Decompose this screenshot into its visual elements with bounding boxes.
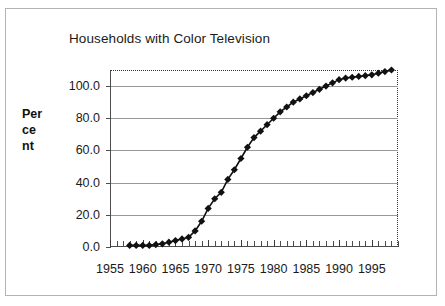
data-point-marker bbox=[316, 86, 323, 93]
y-axis-tick-mark bbox=[106, 247, 111, 248]
x-axis-tick-label: 1960 bbox=[129, 262, 157, 276]
data-point-marker bbox=[178, 235, 185, 242]
data-point-marker bbox=[133, 242, 140, 249]
data-point-marker bbox=[139, 242, 146, 249]
y-axis-tick-label: 100.0 bbox=[48, 79, 100, 93]
x-axis-tick-label: 1975 bbox=[227, 262, 255, 276]
data-point-marker bbox=[296, 95, 303, 102]
y-axis-tick-label: 80.0 bbox=[48, 111, 100, 125]
data-point-marker bbox=[309, 89, 316, 96]
y-axis-tick-label: 20.0 bbox=[48, 208, 100, 222]
x-axis-tick-labels: 195519601965197019751980198519901995 bbox=[6, 262, 445, 282]
data-point-marker bbox=[362, 72, 369, 79]
data-point-marker bbox=[165, 239, 172, 246]
x-axis-tick-label: 1995 bbox=[358, 262, 386, 276]
data-point-marker bbox=[349, 74, 356, 81]
data-point-marker bbox=[381, 68, 388, 75]
y-axis-tick-labels: 0.020.040.060.080.0100.0 bbox=[48, 69, 100, 269]
data-point-marker bbox=[355, 73, 362, 80]
series-line bbox=[130, 70, 392, 245]
x-axis-tick-label: 1990 bbox=[325, 262, 353, 276]
y-axis-tick-label: 60.0 bbox=[48, 143, 100, 157]
data-point-marker bbox=[146, 242, 153, 249]
y-axis-tick-label: 40.0 bbox=[48, 176, 100, 190]
data-point-marker bbox=[172, 237, 179, 244]
data-series-color-tv bbox=[110, 70, 398, 247]
data-point-marker bbox=[322, 82, 329, 89]
data-point-marker bbox=[303, 92, 310, 99]
x-axis-tick-mark bbox=[398, 241, 399, 247]
data-point-marker bbox=[237, 155, 244, 162]
y-axis-tick-label: 0.0 bbox=[48, 240, 100, 254]
x-axis-tick-label: 1955 bbox=[96, 262, 124, 276]
data-point-marker bbox=[368, 71, 375, 78]
data-point-marker bbox=[152, 241, 159, 248]
figure-page: Households with Color Television Per ce … bbox=[0, 0, 445, 306]
x-axis-tick-label: 1970 bbox=[194, 262, 222, 276]
x-axis-tick-label: 1985 bbox=[292, 262, 320, 276]
data-point-marker bbox=[342, 74, 349, 81]
data-point-marker bbox=[335, 76, 342, 83]
data-point-marker bbox=[329, 79, 336, 86]
data-point-marker bbox=[375, 70, 382, 77]
plot-area bbox=[110, 70, 398, 247]
data-point-marker bbox=[159, 240, 166, 247]
data-point-marker bbox=[388, 66, 395, 73]
data-point-marker bbox=[126, 242, 133, 249]
chart-title: Households with Color Television bbox=[69, 31, 369, 46]
x-axis-tick-label: 1980 bbox=[260, 262, 288, 276]
figure-frame: Households with Color Television Per ce … bbox=[5, 8, 437, 296]
x-axis-tick-label: 1965 bbox=[162, 262, 190, 276]
